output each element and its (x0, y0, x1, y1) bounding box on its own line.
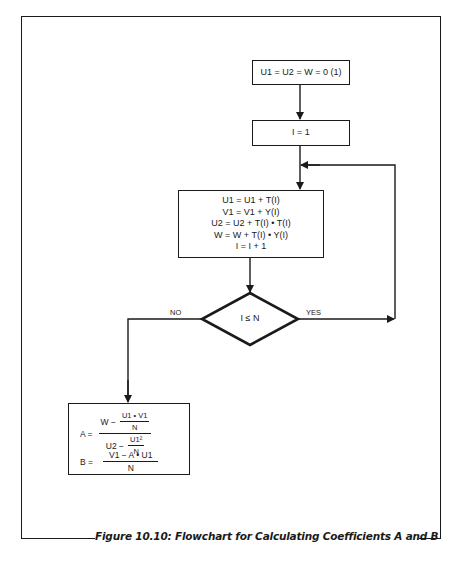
formula-a-lhs: A = (80, 429, 93, 439)
formula-b-lhs: B = (80, 457, 93, 467)
formula-a-den-frac-num: U1² (128, 435, 144, 446)
decision-condition: I ≤ N (220, 313, 280, 323)
formula-a-num-prefix: W − (101, 417, 116, 427)
loop-box: U1 = U1 + T(I) V1 = V1 + Y(I) U2 = U2 + … (178, 190, 324, 258)
formula-b-fraction: V1 − A • U1 N (103, 450, 158, 473)
formula-a-den-prefix: U2 − (106, 441, 124, 451)
formula-b: B = V1 − A • U1 N (80, 450, 158, 473)
decision-yes-label: YES (306, 308, 321, 317)
loop-line-u1: U1 = U1 + T(I) (222, 195, 279, 207)
formula-a-num-frac-num: U1 • V1 (120, 411, 150, 422)
formula-a-num-frac-den: N (132, 422, 137, 432)
formula-a-numerator: W − U1 • V1 N (99, 411, 152, 434)
init-box: U1 = U2 = W = 0 (1) (252, 60, 350, 85)
loop-line-w: W = W + T(I) • Y(I) (214, 230, 288, 242)
formula-b-denominator: N (128, 462, 134, 473)
formula-a-num-fraction: U1 • V1 N (120, 411, 150, 432)
init-box-text: U1 = U2 = W = 0 (1) (261, 67, 342, 79)
formula-b-numerator: V1 − A • U1 (103, 450, 158, 462)
counter-box-text: I = 1 (292, 127, 310, 139)
loop-line-v1: V1 = V1 + Y(I) (223, 207, 280, 219)
decision-no-label: NO (170, 308, 181, 317)
loop-line-u2: U2 = U2 + T(I) • T(I) (211, 218, 290, 230)
counter-box: I = 1 (252, 120, 350, 146)
flowchart-connectors (0, 0, 457, 573)
loop-line-i: I = I + 1 (236, 241, 267, 253)
no-branch-line (128, 319, 202, 400)
